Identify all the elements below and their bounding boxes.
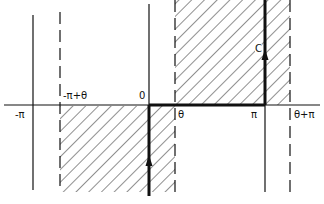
label-contour-c: C bbox=[255, 44, 262, 54]
label-neg-pi-plus-theta: -π+θ bbox=[63, 91, 87, 101]
contour-diagram: -π -π+θ 0 θ π θ+π C bbox=[0, 0, 324, 204]
label-theta-plus-pi: θ+π bbox=[294, 110, 315, 120]
label-theta: θ bbox=[178, 110, 184, 120]
label-pi: π bbox=[251, 110, 257, 120]
label-neg-pi: -π bbox=[15, 110, 25, 120]
hatched-region-lower bbox=[60, 106, 175, 192]
diagram-canvas bbox=[0, 0, 324, 204]
label-zero: 0 bbox=[139, 91, 145, 101]
hatched-region-upper bbox=[175, 0, 290, 105]
